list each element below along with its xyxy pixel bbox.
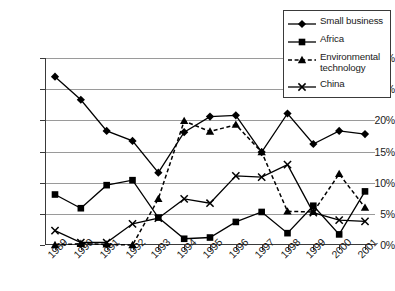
legend-item-africa: Africa <box>287 34 386 46</box>
legend-key-diamond-icon <box>287 16 317 28</box>
chart-container: 0%5%10%15%20%25%30% 19891990199119921993… <box>0 0 395 291</box>
y-tick-mark <box>40 245 45 246</box>
legend-key-square-icon <box>287 34 317 46</box>
legend-key-cross-icon <box>287 79 317 91</box>
legend-label-environmental-technology: Environmental technology <box>320 52 380 73</box>
chart-legend: Small business Africa Environmental tech… <box>283 10 391 98</box>
legend-label-china: China <box>320 79 345 90</box>
legend-item-small-business: Small business <box>287 16 386 28</box>
legend-label-africa: Africa <box>320 34 344 45</box>
legend-item-china: China <box>287 79 386 91</box>
legend-item-environmental-technology: Environmental technology <box>287 52 386 73</box>
legend-label-small-business: Small business <box>320 16 383 27</box>
legend-key-triangle-icon <box>287 52 317 64</box>
